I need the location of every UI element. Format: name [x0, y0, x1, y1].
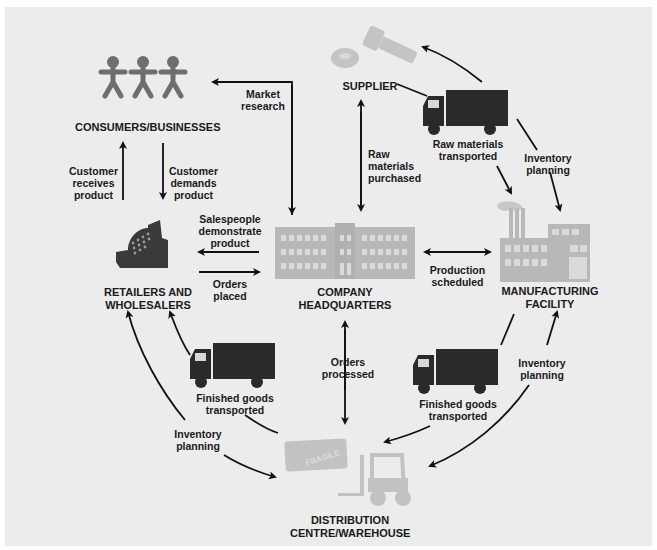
edge-label-line: Finished goods [413, 398, 503, 410]
edge-label-production: Production scheduled [425, 264, 490, 288]
edge-label-line: Inventory [512, 357, 572, 369]
headquarters-label-line1: COMPANY [295, 286, 395, 299]
edge-label-line: Customer [166, 165, 221, 177]
edge-label-line: transported [428, 150, 508, 162]
edge-label-inventory-left: Inventory planning [168, 428, 228, 452]
edge-label-raw-transported: Raw materials transported [428, 138, 508, 162]
distribution-label-line1: DISTRIBUTION [290, 514, 410, 527]
distribution-label-line2: CENTRE/WAREHOUSE [290, 527, 410, 540]
headquarters-label: COMPANY HEADQUARTERS [295, 286, 395, 312]
edge-label-line: Inventory [518, 152, 578, 164]
edge-label-line: Inventory [168, 428, 228, 440]
edge-label-market-research: Market research [238, 88, 288, 112]
edge-label-line: planning [168, 440, 228, 452]
edge-label-line: processed [318, 368, 378, 380]
headquarters-label-line2: HEADQUARTERS [295, 299, 395, 312]
edge-label-line: product [166, 189, 221, 201]
edge-label-line: Finished goods [190, 392, 280, 404]
edge-label-line: receives [66, 177, 121, 189]
edge-label-line: placed [205, 290, 255, 302]
bolt-nut-icon [331, 25, 420, 68]
edge-label-line: planning [512, 369, 572, 381]
edge-label-inventory-right: Inventory planning [512, 357, 572, 381]
factory-icon [497, 201, 590, 282]
manufacturing-label-line1: MANUFACTURING [495, 285, 605, 298]
office-building-icon [275, 223, 415, 279]
edge-label-line: demonstrate [195, 225, 265, 237]
edge-label-customer-demands: Customer demands product [166, 165, 221, 201]
retailers-label-line1: RETAILERS AND [98, 286, 198, 299]
truck-icon [423, 90, 508, 135]
edge-label-line: product [195, 237, 265, 249]
edge-label-line: Orders [205, 278, 255, 290]
retailers-label: RETAILERS AND WHOLESALERS [98, 286, 198, 312]
diagram-artwork: FRAGILE [0, 0, 657, 550]
edge-label-inventory-top: Inventory planning [518, 152, 578, 176]
edge-label-line: Raw materials [428, 138, 508, 150]
edge-label-line: Orders [318, 356, 378, 368]
people-icon [101, 56, 185, 96]
edge-label-line: research [238, 100, 288, 112]
cash-register-icon [116, 220, 168, 268]
truck-icon [413, 349, 498, 394]
edge-label-customer-receives: Customer receives product [66, 165, 121, 201]
edge-label-line: demands [166, 177, 221, 189]
edge-label-line: Market [238, 88, 288, 100]
manufacturing-label-line2: FACILITY [495, 298, 605, 311]
distribution-label: DISTRIBUTION CENTRE/WAREHOUSE [290, 514, 410, 540]
edge-label-line: planning [518, 164, 578, 176]
edge-label-orders-processed: Orders processed [318, 356, 378, 380]
edge-label-line: transported [413, 410, 503, 422]
truck-icon [190, 343, 275, 388]
edge-label-finished-right: Finished goods transported [413, 398, 503, 422]
edge-label-line: scheduled [425, 276, 490, 288]
edge-label-line: Salespeople [195, 213, 265, 225]
edge-label-finished-left: Finished goods transported [190, 392, 280, 416]
edge-label-line: product [66, 189, 121, 201]
forklift-crate-icon: FRAGILE [284, 438, 411, 506]
edge-label-line: materials [368, 160, 423, 172]
edge-label-line: Raw [368, 148, 423, 160]
edge-label-raw-purchased: Raw materials purchased [368, 148, 423, 184]
retailers-label-line2: WHOLESALERS [98, 299, 198, 312]
supplier-label: SUPPLIER [340, 80, 400, 93]
edge-label-line: transported [190, 404, 280, 416]
edge-label-orders-placed: Orders placed [205, 278, 255, 302]
edge-label-salespeople: Salespeople demonstrate product [195, 213, 265, 249]
edge-label-line: Customer [66, 165, 121, 177]
manufacturing-label: MANUFACTURING FACILITY [495, 285, 605, 311]
consumers-label: CONSUMERS/BUSINESSES [75, 121, 215, 134]
edge-label-line: purchased [368, 172, 423, 184]
edge-label-line: Production [425, 264, 490, 276]
